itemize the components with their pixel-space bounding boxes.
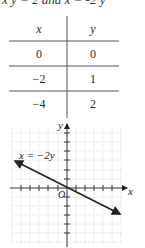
coordinate-graph bbox=[0, 0, 145, 248]
x-axis-label: x bbox=[128, 185, 133, 197]
equation-label: x = −2y bbox=[19, 149, 55, 161]
origin-label: O bbox=[58, 189, 65, 200]
y-axis-label: y bbox=[58, 119, 63, 131]
